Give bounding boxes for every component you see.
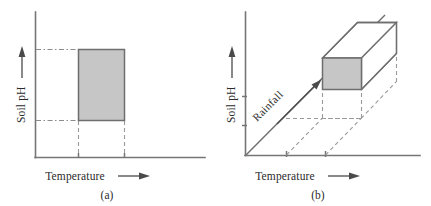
panel-b-projection-line-2 [326,119,362,156]
figure-container: Soil pH Temperature (a) [0,0,431,206]
up-arrow-icon [229,46,236,57]
right-arrow-icon [139,173,150,180]
panel-b-niche-front-face [323,58,362,90]
panel-a-x-axis-label: Temperature [45,170,105,183]
panel-a: Soil pH Temperature (a) [0,0,215,206]
panel-b-rainfall-label: Rainfall [250,88,285,123]
panel-a-y-axis-label: Soil pH [15,86,28,123]
panel-a-caption: (a) [101,189,114,202]
panel-b-projection-line-3 [361,82,396,119]
panel-b-projection-line-1 [287,119,323,156]
panel-b-caption: (b) [311,189,325,202]
up-arrow-icon [19,46,26,57]
right-arrow-icon [349,173,360,180]
panel-b: Rainfall Soil pH Temperature (b) [215,0,431,206]
panel-b-x-axis-label: Temperature [255,170,315,183]
panel-a-niche-rectangle [79,50,125,121]
panel-b-y-axis-label: Soil pH [225,86,238,123]
